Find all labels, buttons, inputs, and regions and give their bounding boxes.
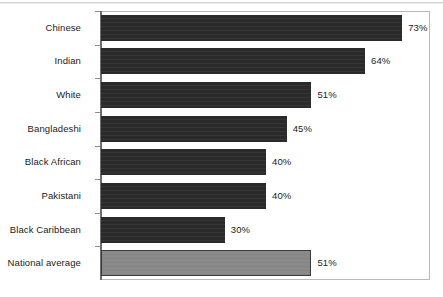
bar [101, 15, 402, 41]
bar [101, 149, 266, 175]
bar-row: Black Caribbean30% [100, 213, 430, 247]
bar-row: Pakistani40% [100, 179, 430, 213]
axis-tick-mark [95, 45, 100, 46]
bar [101, 48, 365, 74]
bar-value-label: 40% [272, 191, 291, 201]
category-label: National average [8, 258, 81, 268]
bar [101, 250, 311, 276]
bar-value-label: 30% [231, 225, 250, 235]
bar [101, 82, 311, 108]
category-label: Pakistani [42, 191, 81, 201]
bar-value-label: 51% [317, 90, 336, 100]
bar-row: Chinese73% [100, 11, 430, 45]
bar [101, 217, 225, 243]
category-label: Black Caribbean [10, 225, 81, 235]
category-label: Black African [25, 157, 81, 167]
axis-tick-mark [95, 78, 100, 79]
plot-area: Chinese73%Indian64%White51%Bangladeshi45… [100, 11, 430, 280]
bar [101, 183, 266, 209]
axis-tick-mark [95, 112, 100, 113]
bar-value-label: 64% [371, 56, 390, 66]
axis-tick-mark [95, 213, 100, 214]
bar-row: Black African40% [100, 146, 430, 180]
bar-row: White51% [100, 78, 430, 112]
bar-value-label: 73% [408, 23, 427, 33]
category-label: White [56, 90, 81, 100]
axis-tick-mark [95, 246, 100, 247]
bar-row: Indian64% [100, 45, 430, 79]
bar-value-label: 51% [317, 258, 336, 268]
axis-tick-mark [95, 146, 100, 147]
bar [101, 116, 287, 142]
bar-value-label: 45% [293, 124, 312, 134]
category-label: Bangladeshi [28, 124, 81, 134]
category-label: Chinese [45, 23, 81, 33]
bar-row: Bangladeshi45% [100, 112, 430, 146]
axis-tick-mark [95, 179, 100, 180]
bar-row: National average51% [100, 246, 430, 280]
bar-chart-figure: Chinese73%Indian64%White51%Bangladeshi45… [0, 0, 443, 297]
bar-value-label: 40% [272, 157, 291, 167]
axis-tick-mark [95, 11, 100, 12]
category-label: Indian [55, 56, 81, 66]
